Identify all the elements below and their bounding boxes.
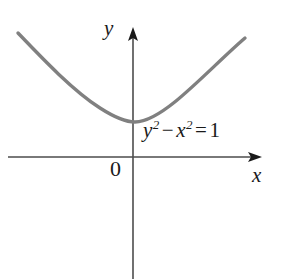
equation-equals-sign: = (193, 118, 209, 142)
hyperbola-upper-branch-curve (18, 33, 245, 122)
x-axis-label: x (252, 165, 261, 186)
curve-equation-label: y2−x2=1 (143, 120, 220, 141)
y-axis-label: y (104, 18, 113, 39)
origin-label: 0 (110, 158, 121, 180)
equation-var-y: y (143, 118, 153, 142)
equation-exponent-y: 2 (153, 117, 160, 132)
equation-minus-operator: − (160, 118, 176, 142)
equation-right-hand-side: 1 (209, 118, 220, 142)
equation-var-x: x (176, 118, 186, 142)
equation-exponent-x: 2 (186, 117, 193, 132)
graph-figure: y x 0 y2−x2=1 (0, 0, 291, 279)
